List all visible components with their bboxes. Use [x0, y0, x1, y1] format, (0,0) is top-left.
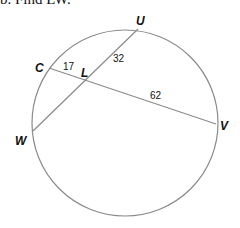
label-V: V: [220, 119, 229, 133]
label-W: W: [15, 134, 28, 148]
length-LV: 62: [150, 90, 162, 101]
label-L: L: [81, 66, 88, 80]
length-CL: 17: [63, 61, 75, 72]
length-LU: 32: [113, 53, 125, 64]
label-C: C: [35, 61, 44, 75]
circle: [32, 30, 218, 216]
label-U: U: [136, 14, 145, 28]
chord-CV: [49, 68, 216, 124]
circle-diagram: U C L W V 17 32 62: [0, 0, 240, 228]
